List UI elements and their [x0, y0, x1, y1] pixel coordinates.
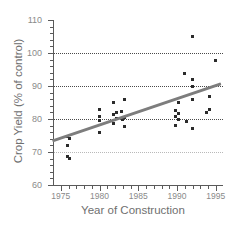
gridline-y-90: [54, 86, 223, 87]
y-minor-tick: [50, 79, 53, 80]
y-tick-label-110: 110: [2, 16, 42, 25]
y-tick-80: [48, 119, 53, 120]
x-axis-title: Year of Construction: [33, 204, 233, 216]
x-minor-tick: [107, 186, 108, 189]
y-minor-tick: [50, 40, 53, 41]
data-point: [112, 122, 115, 125]
y-tick-110: [48, 20, 53, 21]
y-axis-spine: [53, 20, 54, 186]
y-minor-tick: [50, 178, 53, 179]
y-axis-title: Crop Yield (% of control): [12, 16, 24, 186]
x-minor-tick: [208, 186, 209, 189]
regression-trend-line: [52, 83, 222, 143]
data-point: [68, 157, 71, 160]
data-point: [208, 108, 211, 111]
data-point: [191, 98, 194, 101]
y-minor-tick: [50, 126, 53, 127]
y-minor-tick: [50, 132, 53, 133]
y-minor-tick: [50, 159, 53, 160]
x-tick-label-1975: 1975: [41, 192, 81, 201]
y-tick-90: [48, 86, 53, 87]
y-minor-tick: [50, 27, 53, 28]
gridline-y-80: [54, 119, 223, 120]
x-minor-tick: [162, 186, 163, 189]
y-tick-60: [48, 185, 53, 186]
gridline-y-70: [54, 152, 223, 153]
y-minor-tick: [50, 60, 53, 61]
x-minor-tick: [92, 186, 93, 189]
x-minor-tick: [84, 186, 85, 189]
data-point: [208, 95, 211, 98]
y-tick-100: [48, 53, 53, 54]
data-point: [98, 119, 101, 122]
scatter-chart-figure: Crop Yield (% of control) 60708090100110…: [0, 0, 236, 229]
data-point: [177, 101, 180, 104]
data-point: [115, 111, 118, 114]
data-point: [185, 120, 188, 123]
data-point: [66, 144, 69, 147]
y-tick-label-100: 100: [2, 49, 42, 58]
data-point: [177, 118, 180, 121]
y-tick-70: [48, 152, 53, 153]
x-minor-tick: [76, 186, 77, 189]
x-minor-tick: [185, 186, 186, 189]
y-minor-tick: [50, 46, 53, 47]
x-minor-tick: [115, 186, 116, 189]
x-minor-tick: [154, 186, 155, 189]
data-point: [177, 112, 180, 115]
y-minor-tick: [50, 112, 53, 113]
data-point: [174, 124, 177, 127]
y-minor-tick: [50, 66, 53, 67]
x-minor-tick: [69, 186, 70, 189]
y-tick-label-60: 60: [2, 181, 42, 190]
data-point: [98, 115, 101, 118]
data-point: [112, 113, 115, 116]
data-point: [191, 85, 194, 88]
data-point: [191, 35, 194, 38]
y-minor-tick: [50, 99, 53, 100]
x-minor-tick: [146, 186, 147, 189]
x-tick-label-1995: 1995: [196, 192, 236, 201]
x-tick-label-1980: 1980: [80, 192, 120, 201]
data-point: [191, 78, 194, 81]
y-minor-tick: [50, 93, 53, 94]
x-minor-tick: [169, 186, 170, 189]
data-point: [205, 111, 208, 114]
data-point: [191, 127, 194, 130]
x-minor-tick: [193, 186, 194, 189]
y-minor-tick: [50, 172, 53, 173]
data-point: [123, 125, 126, 128]
data-point: [98, 131, 101, 134]
data-point: [183, 72, 186, 75]
x-minor-tick: [131, 186, 132, 189]
data-point: [112, 101, 115, 104]
y-tick-label-70: 70: [2, 148, 42, 157]
x-tick-label-1990: 1990: [157, 192, 197, 201]
data-point: [98, 108, 101, 111]
gridline-y-100: [54, 53, 223, 54]
y-minor-tick: [50, 106, 53, 107]
data-point: [123, 98, 126, 101]
x-minor-tick: [123, 186, 124, 189]
data-point: [120, 110, 123, 113]
y-minor-tick: [50, 73, 53, 74]
y-tick-label-80: 80: [2, 115, 42, 124]
y-minor-tick: [50, 33, 53, 34]
x-minor-tick: [200, 186, 201, 189]
data-point: [214, 59, 217, 62]
y-tick-label-90: 90: [2, 82, 42, 91]
y-minor-tick: [50, 145, 53, 146]
x-tick-label-1985: 1985: [118, 192, 158, 201]
y-minor-tick: [50, 165, 53, 166]
